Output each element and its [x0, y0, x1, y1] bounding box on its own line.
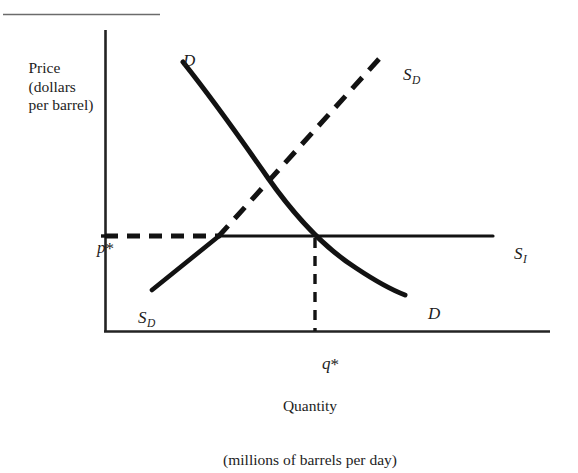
supply-international-label-text: S [514, 244, 523, 263]
y-axis-caption-line-1: Price [29, 59, 61, 76]
demand-curve-label-bottom-text: D [428, 304, 440, 323]
supply-international-label-subscript: I [523, 253, 527, 265]
y-axis-caption-line-2: (dollars [29, 78, 76, 95]
supply-domestic-label-top: SD [386, 45, 420, 105]
demand-curve-label-top-text: D [183, 51, 195, 70]
supply-domestic-dashed-segment [218, 59, 379, 237]
supply-domestic-label-bottom: SD [121, 288, 155, 348]
demand-curve [183, 62, 405, 295]
x-axis-caption-line-2: (millions of barrels per day) [160, 451, 460, 469]
equilibrium-quantity-label-star: * [331, 355, 340, 374]
supply-domestic-solid-segment [152, 236, 219, 290]
supply-domestic-label-top-subscript: D [412, 74, 420, 86]
equilibrium-quantity-label: q* [305, 334, 339, 394]
equilibrium-price-label-star: * [106, 239, 115, 258]
supply-domestic-label-bottom-subscript: D [147, 317, 155, 329]
equilibrium-price-label-text: p [97, 238, 106, 257]
supply-international-label: SI [497, 224, 526, 284]
y-axis-caption: Price (dollars per barrel) [13, 41, 93, 132]
demand-curve-label-top: D [166, 31, 195, 91]
equilibrium-price-label: p* [80, 218, 114, 278]
supply-domestic-label-top-text: S [403, 65, 412, 84]
equilibrium-quantity-label-text: q [322, 354, 331, 373]
supply-domestic-label-bottom-text: S [138, 308, 147, 327]
y-axis-caption-line-3: per barrel) [29, 96, 94, 113]
demand-curve-label-bottom: D [411, 284, 440, 344]
x-axis-caption-line-1: Quantity [160, 397, 460, 415]
